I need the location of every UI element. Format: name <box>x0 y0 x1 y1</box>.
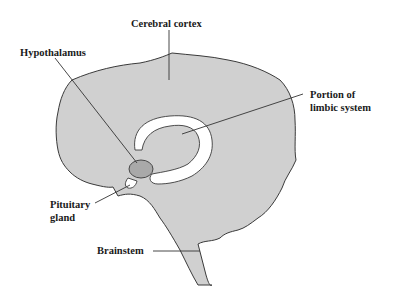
label-pituitary-line2: gland <box>50 212 75 223</box>
label-cerebral-cortex: Cerebral cortex <box>131 18 202 29</box>
label-brainstem: Brainstem <box>97 245 144 256</box>
label-limbic-line1: Portion of <box>310 89 356 100</box>
label-limbic-line2: limbic system <box>310 102 371 113</box>
label-pituitary-line1: Pituitary <box>50 199 91 210</box>
brain-diagram: Cerebral cortex Hypothalamus Portion of … <box>0 0 397 300</box>
hypothalamus <box>129 160 153 178</box>
label-hypothalamus: Hypothalamus <box>20 47 86 58</box>
